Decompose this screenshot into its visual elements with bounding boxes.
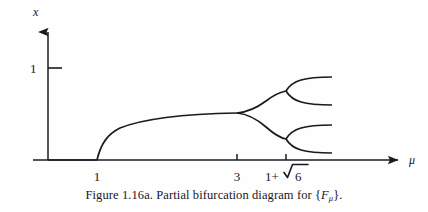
curve-period-4-lower-b <box>286 139 332 153</box>
x-tick-label-prefix: 1+ <box>265 169 279 184</box>
y-tick-label-1: 1 <box>30 61 37 76</box>
caption-prefix: Figure 1.16a. <box>85 188 153 202</box>
curve-period-4-upper-b <box>286 91 332 105</box>
curve-period-4-lower-a <box>286 125 332 139</box>
caption-body: Partial bifurcation diagram for { <box>156 188 321 202</box>
caption-symbol: F <box>321 188 329 202</box>
figure-caption: Figure 1.16a. Partial bifurcation diagra… <box>0 188 428 203</box>
figure-container: x μ 1 1 3 1+ 6 <box>0 0 428 212</box>
x-tick-label-1: 1 <box>94 169 101 184</box>
x-tick-label-3: 3 <box>234 169 241 184</box>
x-tick-label-radicand: 6 <box>295 169 302 184</box>
y-axis-label: x <box>32 5 39 19</box>
curve-period-4-upper-a <box>286 77 332 91</box>
curve-period-1-branch <box>97 113 237 160</box>
caption-suffix: }. <box>333 188 342 202</box>
curve-period-2-lower <box>237 113 286 139</box>
curve-period-2-upper <box>237 91 286 113</box>
x-tick-label-1-plus-sqrt6: 1+ 6 <box>265 165 308 185</box>
x-axis-label: μ <box>408 153 415 167</box>
bifurcation-diagram-plot: x μ 1 1 3 1+ 6 <box>0 0 428 212</box>
